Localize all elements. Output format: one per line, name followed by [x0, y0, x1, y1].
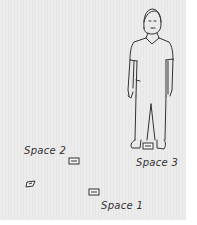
space-3-label: Space 3: [136, 157, 178, 168]
sensor-device-space3-icon: [143, 143, 153, 149]
gateway-device-icon: [26, 181, 35, 187]
space-2-label: Space 2: [24, 145, 66, 156]
sensor-device-space1-icon: [89, 189, 99, 195]
sensor-devices: [0, 0, 197, 225]
space-1-label: Space 1: [101, 200, 143, 211]
sensor-device-space2-icon: [69, 158, 79, 164]
